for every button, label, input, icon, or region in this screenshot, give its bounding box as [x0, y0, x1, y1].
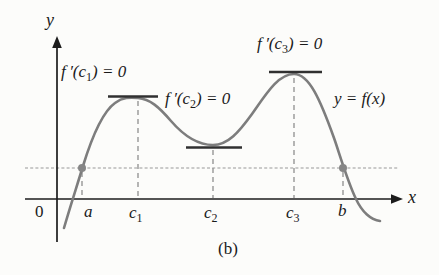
tick-subscript: 3	[294, 211, 300, 225]
point-b-dot	[339, 164, 347, 172]
equation-text: ) = 0	[288, 34, 322, 53]
tick-label-c2: c2	[204, 204, 218, 223]
origin-label: 0	[35, 203, 44, 222]
tick-text: c	[204, 203, 212, 222]
point-a-dot	[78, 164, 86, 172]
tick-label-c1: c1	[129, 204, 143, 223]
tick-text: c	[286, 203, 294, 222]
subscript: 1	[86, 70, 92, 84]
tick-label-a: a	[84, 203, 93, 222]
tick-label-b: b	[338, 202, 347, 221]
equation-text: f ′(c	[165, 89, 190, 108]
equation-fprime-c2: f ′(c2) = 0	[165, 90, 230, 109]
x-axis-arrow-icon	[391, 194, 403, 204]
equation-text: ) = 0	[92, 62, 126, 81]
equation-text: f ′(c	[61, 62, 86, 81]
equation-text: f ′(c	[257, 34, 282, 53]
equation-fprime-c1: f ′(c1) = 0	[61, 63, 126, 82]
y-axis-arrow-icon	[52, 36, 62, 48]
rolle-theorem-figure: y x 0 f ′(c1) = 0 f ′(c2) = 0 f ′(c3) = …	[0, 0, 439, 275]
x-axis-label: x	[408, 188, 416, 208]
figure-caption: (b)	[218, 240, 238, 259]
tick-text: b	[338, 201, 347, 220]
subscript: 2	[190, 97, 196, 111]
y-axis-label: y	[46, 11, 54, 31]
tick-subscript: 1	[137, 211, 143, 225]
figure-canvas	[0, 0, 439, 275]
curve-equation-label: y = f(x)	[334, 90, 385, 109]
subscript: 3	[282, 42, 288, 56]
tick-label-c3: c3	[286, 204, 300, 223]
tick-text: c	[129, 203, 137, 222]
tick-subscript: 2	[212, 211, 218, 225]
equation-text: ) = 0	[196, 89, 230, 108]
tick-text: a	[84, 202, 93, 221]
equation-fprime-c3: f ′(c3) = 0	[257, 35, 322, 54]
